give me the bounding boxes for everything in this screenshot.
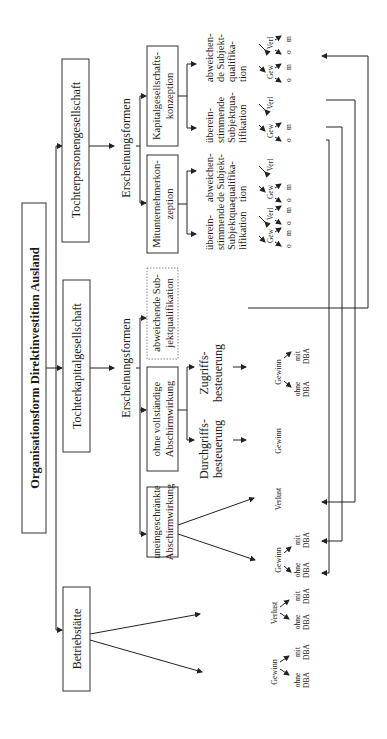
uneingeschr-label-1: uneingeschränkte	[151, 485, 162, 559]
tochterpers-node: Tochterpersonengesellschaft	[62, 59, 89, 242]
svg-text:Subjektqua-: Subjektqua-	[226, 199, 237, 250]
bst-verlust-line	[90, 614, 200, 634]
svg-text:DBA: DBA	[302, 562, 311, 578]
svg-text:tion: tion	[237, 185, 248, 202]
durchgriff-label-2: besteuerung	[211, 420, 225, 478]
mitunternehmer-label-2: zeption	[164, 188, 175, 220]
svg-text:DBA: DBA	[302, 532, 311, 548]
bst-verlust-group: Verlust ohne DBA mit DBA	[270, 588, 311, 630]
svg-text:qualifika-: qualifika-	[226, 41, 237, 82]
ohne-vollst-node: ohne vollständige Abschirmwirkung	[147, 367, 178, 471]
svg-text:überein-: überein-	[204, 215, 215, 250]
svg-text:ohne: ohne	[293, 381, 302, 396]
svg-text:m: m	[284, 124, 293, 130]
svg-text:mit: mit	[293, 350, 302, 361]
svg-text:o: o	[284, 198, 293, 202]
svg-text:stimmende: stimmende	[215, 97, 226, 143]
bst-gewinn-line	[90, 640, 202, 672]
uneingeschraenkte-node: uneingeschränkte Abschirmwirkung	[147, 483, 178, 560]
mitunternehmer-node: Mitunternehmerkon- zeption	[147, 155, 178, 253]
un-gewinn-group: Gewinn ohne DBA mit DBA	[274, 532, 311, 578]
svg-text:m: m	[284, 184, 293, 190]
kg-ueber-leaves: Gew Verl o m	[259, 97, 293, 142]
svg-text:o: o	[284, 138, 293, 142]
svg-text:Verl: Verl	[266, 37, 275, 50]
un-gewinn-line	[178, 534, 255, 560]
tochterkap-label: Tochterkapitalgesellschaft	[70, 302, 84, 428]
mu-abw-label: abweichen- de Subjekt- qualifika- tion	[204, 153, 248, 202]
svg-text:de Subjekt-: de Subjekt-	[215, 33, 226, 82]
abweichende-sub-node: abweichende Sub- jektqualifikation	[147, 268, 178, 359]
svg-text:Gew: Gew	[266, 228, 275, 243]
tochterkap-node: Tochterkapitalgesellschaft	[63, 280, 90, 452]
durchgriff-gewinn: Gewinn	[274, 428, 283, 453]
betriebstaette-label: Betriebstätte	[70, 609, 84, 670]
abweichende-sub-label-1: abweichende Sub-	[151, 274, 162, 352]
svg-text:Gew: Gew	[266, 123, 275, 138]
svg-text:mit: mit	[293, 590, 302, 601]
kapges-node: Kapitalgesellschafts- konzeption	[147, 46, 178, 146]
ohne-vollst-label-1: ohne vollständige	[151, 381, 162, 456]
svg-text:Subjektqua-: Subjektqua-	[226, 92, 237, 143]
svg-text:Verl: Verl	[266, 208, 275, 221]
tk-erscheinungsformen: Erscheinungsformen	[119, 318, 133, 417]
svg-text:DBA: DBA	[302, 381, 311, 397]
svg-text:überein-: überein-	[204, 108, 215, 143]
svg-text:DBA: DBA	[302, 588, 311, 604]
tochterpers-label: Tochterpersonengesellschaft	[69, 81, 83, 218]
bst-verlust: Verlust	[270, 601, 279, 624]
mu-ueber-label: überein- stimmende Subjektqua- lifikatio…	[204, 199, 248, 250]
svg-text:m: m	[284, 64, 293, 70]
kapges-label-2: konzeption	[164, 72, 175, 119]
svg-text:DBA: DBA	[302, 644, 311, 660]
abweichende-sub-label-2: jektqualifikation	[164, 278, 175, 349]
svg-text:abweichen-: abweichen-	[204, 33, 215, 82]
svg-text:abweichen-: abweichen-	[204, 153, 215, 202]
svg-text:m: m	[284, 36, 293, 42]
svg-text:o: o	[284, 244, 293, 248]
svg-text:qualifika-: qualifika-	[226, 161, 237, 202]
un-gewinn: Gewinn	[274, 547, 283, 572]
betriebstaette-node: Betriebstätte	[63, 587, 90, 691]
svg-text:stimmende: stimmende	[215, 204, 226, 250]
mu-ueber-leaves: Gew Verl o m o m	[259, 206, 293, 248]
kg-ueber-label: überein- stimmende Subjektqua- lifikatio…	[204, 92, 248, 143]
svg-text:mit: mit	[293, 646, 302, 657]
svg-text:Verl: Verl	[266, 97, 275, 110]
svg-text:ohne: ohne	[293, 562, 302, 577]
ohne-vollst-label-2: Abschirmwirkung	[164, 380, 175, 457]
bst-gewinn-group: Gewinn ohne DBA mit DBA	[270, 644, 311, 688]
mu-abw-leaves: Gew Verl o m	[259, 159, 293, 202]
svg-text:tion: tion	[237, 65, 248, 82]
bst-gewinn: Gewinn	[270, 659, 279, 684]
svg-text:m: m	[284, 207, 293, 213]
svg-text:lifikation: lifikation	[237, 211, 248, 250]
zugriff-label-2: besteuerung	[211, 344, 225, 402]
tp-erscheinungsformen: Erscheinungsformen	[119, 98, 133, 197]
svg-text:o: o	[284, 78, 293, 82]
svg-text:mit: mit	[293, 534, 302, 545]
mitunternehmer-label-1: Mitunternehmerkon-	[151, 160, 162, 248]
svg-text:o: o	[284, 221, 293, 225]
svg-text:DBA: DBA	[302, 672, 311, 688]
svg-text:DBA: DBA	[302, 614, 311, 630]
zugriff-gewinn-group: Gewinn ohne DBA mit DBA	[274, 348, 311, 397]
svg-text:Verl: Verl	[266, 159, 275, 172]
svg-text:o: o	[284, 50, 293, 54]
diagram-canvas: Organisationsform Direktinvestition Ausl…	[0, 0, 387, 739]
durchgriff-label-1: Durchgriffs-	[197, 419, 211, 479]
uneingeschr-label-2: Abschirmwirkung	[164, 483, 175, 560]
un-verlust: Verlust	[274, 487, 283, 510]
kg-abw-label: abweichen- de Subjekt- qualifika- tion	[204, 33, 248, 82]
svg-text:ohne: ohne	[293, 614, 302, 629]
svg-text:lifikation: lifikation	[237, 104, 248, 143]
kg-abw-leaves: Gew Verl o m o m	[259, 36, 293, 82]
zugriff-label-1: Zugriffs-	[197, 351, 211, 394]
root-label: Organisationsform Direktinvestition Ausl…	[28, 247, 42, 489]
svg-text:DBA: DBA	[302, 348, 311, 364]
svg-text:de Subjekt-: de Subjekt-	[215, 153, 226, 202]
svg-text:Gew: Gew	[266, 184, 275, 199]
zugriff-gewinn: Gewinn	[274, 359, 283, 384]
un-verlust-line	[178, 498, 254, 525]
svg-text:Gew: Gew	[266, 64, 275, 79]
